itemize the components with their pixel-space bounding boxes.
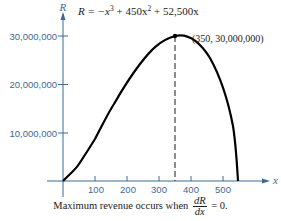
revenue-curve <box>63 35 238 181</box>
max-point-marker <box>173 34 177 38</box>
fraction-denominator: dx <box>193 207 207 217</box>
x-tick-label-200: 200 <box>120 184 136 195</box>
x-axis-label: x <box>272 174 278 186</box>
y-tick-label-20m: 20,000,000 <box>9 79 57 90</box>
derivative-fraction: dRdx <box>193 196 207 217</box>
x-tick-label-500: 500 <box>215 184 231 195</box>
y-tick-label-10m: 10,000,000 <box>9 128 57 139</box>
x-tick-label-400: 400 <box>183 184 199 195</box>
y-axis-arrow-icon <box>61 12 66 20</box>
x-axis-arrow-icon <box>262 179 270 184</box>
caption-prefix: Maximum revenue occurs when <box>53 200 191 211</box>
chart-caption: Maximum revenue occurs when dRdx = 0. <box>0 196 281 217</box>
equation-label: R = −x3 + 450x2 + 52,500x <box>77 4 199 17</box>
x-tick-label-300: 300 <box>151 184 167 195</box>
max-point-label: (350, 30,000,000) <box>192 33 264 45</box>
y-axis-label: R <box>59 1 67 13</box>
y-tick-label-30m: 30,000,000 <box>9 31 57 42</box>
revenue-chart: R x 30,000,000 20,000,000 10,000,000 100… <box>0 0 281 221</box>
caption-suffix: = 0. <box>209 200 228 211</box>
x-tick-label-100: 100 <box>88 184 104 195</box>
